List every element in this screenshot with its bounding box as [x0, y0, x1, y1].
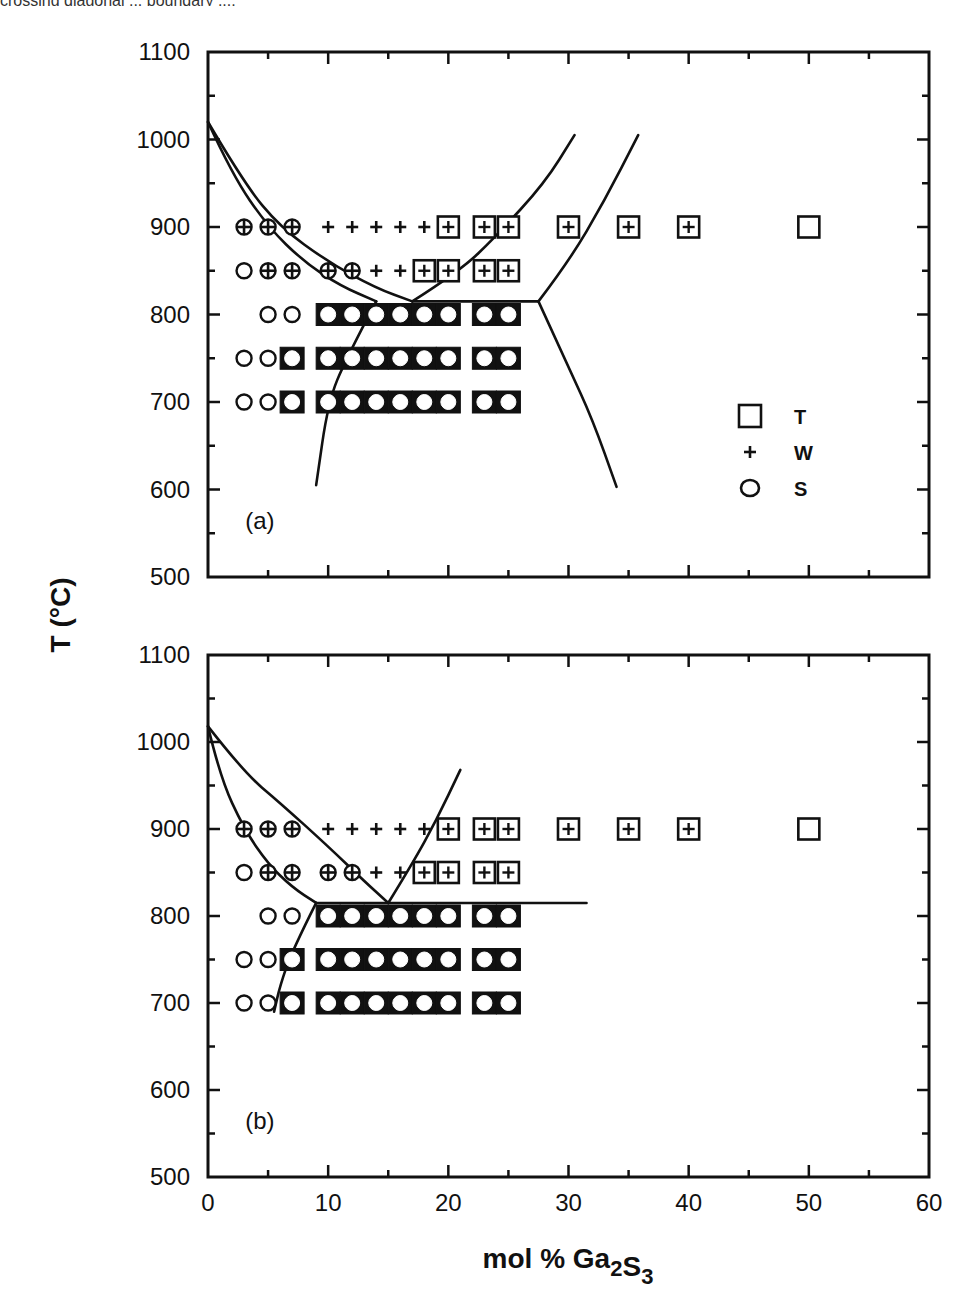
data-point: [472, 347, 496, 369]
data-point: [412, 391, 436, 413]
data-point: [280, 992, 304, 1014]
square-marker: [798, 819, 819, 840]
circle-marker: [441, 952, 456, 967]
data-point: [261, 865, 276, 880]
circle-marker: [417, 395, 432, 410]
data-point: [394, 823, 406, 835]
data-point: [346, 823, 358, 835]
shared-axes-labels: T (°C)mol % Ga2S3: [45, 578, 653, 1289]
data-point: [388, 992, 412, 1014]
circle-marker: [285, 996, 300, 1011]
data-point: [285, 909, 300, 924]
circle-marker: [441, 395, 456, 410]
data-point: [261, 307, 276, 322]
circle-marker: [501, 952, 516, 967]
data-point: [370, 867, 382, 879]
y-tick-label: 900: [150, 213, 190, 240]
circle-marker: [261, 952, 276, 967]
data-point: [285, 220, 300, 235]
circle-marker: [417, 351, 432, 366]
data-point: [388, 347, 412, 369]
data-point: [412, 905, 436, 927]
data-point: [261, 996, 276, 1011]
data-point: [414, 862, 435, 883]
circle-marker: [501, 909, 516, 924]
y-tick-label: 800: [150, 902, 190, 929]
circle-marker: [501, 351, 516, 366]
circle-marker: [417, 909, 432, 924]
circle-marker: [261, 996, 276, 1011]
data-point: [237, 263, 252, 278]
circle-marker: [369, 909, 384, 924]
data-point: [496, 992, 520, 1014]
circle-marker: [477, 307, 492, 322]
data-point: [316, 905, 340, 927]
y-tick-label: 1100: [138, 641, 190, 668]
data-point: [340, 347, 364, 369]
circle-marker: [345, 307, 360, 322]
circle-marker: [321, 351, 336, 366]
data-point: [345, 263, 360, 278]
data-point: [322, 823, 334, 835]
data-point: [285, 822, 300, 837]
square-icon: [739, 405, 761, 427]
data-point: [364, 304, 388, 326]
data-point: [438, 862, 459, 883]
data-point: [280, 391, 304, 413]
circle-marker: [369, 307, 384, 322]
data-point: [321, 263, 336, 278]
y-tick-label: 700: [150, 989, 190, 1016]
circle-marker: [237, 996, 252, 1011]
data-point: [412, 949, 436, 971]
data-point: [345, 865, 360, 880]
circle-marker: [501, 395, 516, 410]
data-point: [316, 304, 340, 326]
data-point: [261, 263, 276, 278]
circle-marker: [501, 996, 516, 1011]
panel-b: 500600700800900100011000102030405060(b): [137, 641, 943, 1216]
data-point: [285, 865, 300, 880]
phase-boundary-boundary-right-lower: [538, 301, 616, 487]
legend-item-T: T: [739, 405, 806, 428]
legend-item-S: S: [741, 478, 807, 500]
x-axis-title: mol % Ga2S3: [483, 1243, 654, 1289]
circle-marker: [237, 395, 252, 410]
data-point: [261, 952, 276, 967]
data-point: [436, 949, 460, 971]
data-point: [388, 949, 412, 971]
circle-marker: [369, 351, 384, 366]
circle-marker: [285, 909, 300, 924]
circle-marker: [477, 952, 492, 967]
data-point: [340, 992, 364, 1014]
x-tick-label: 20: [435, 1189, 462, 1216]
data-point: [436, 304, 460, 326]
circle-marker: [393, 952, 408, 967]
data-point: [280, 347, 304, 369]
circle-marker: [477, 395, 492, 410]
data-point: [414, 260, 435, 281]
circle-marker: [441, 351, 456, 366]
circle-marker: [345, 996, 360, 1011]
data-point: [418, 221, 430, 233]
data-point: [316, 391, 340, 413]
data-point: [322, 221, 334, 233]
y-tick-label: 700: [150, 388, 190, 415]
data-point: [237, 996, 252, 1011]
y-axis-title: T (°C): [45, 578, 76, 653]
data-point: [412, 304, 436, 326]
circle-marker: [393, 307, 408, 322]
circle-marker: [441, 307, 456, 322]
circle-marker: [237, 865, 252, 880]
data-point: [438, 260, 459, 281]
data-point: [618, 217, 639, 238]
data-point: [498, 260, 519, 281]
data-point: [798, 819, 819, 840]
legend-label: T: [794, 406, 806, 428]
data-point: [394, 221, 406, 233]
data-point: [370, 221, 382, 233]
data-point: [496, 347, 520, 369]
data-point: [340, 304, 364, 326]
data-point: [438, 217, 459, 238]
data-point: [237, 395, 252, 410]
data-point: [678, 217, 699, 238]
